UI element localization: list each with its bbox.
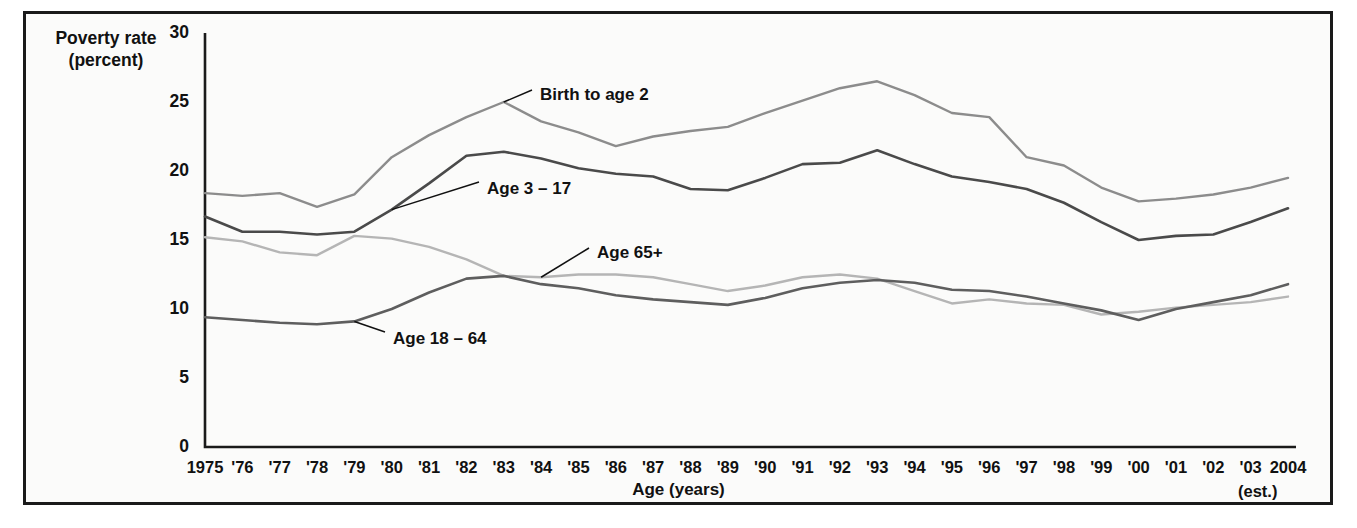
y-axis-tick-label: 20 [149,160,189,181]
x-axis-tick-label: '00 [1127,458,1149,477]
x-axis-tick-label: '98 [1053,458,1075,477]
x-axis-tick-label: '82 [455,458,477,477]
annotation-leader [541,248,589,277]
x-axis-title: Age (years) [0,480,1357,500]
estimate-note: (est.) [1238,482,1277,501]
x-axis-tick-label: 2004 [1270,458,1307,477]
x-axis-tick-label: '76 [231,458,253,477]
series-label: Age 3 – 17 [487,179,571,199]
x-axis-tick-label: '88 [679,458,701,477]
x-axis-tick-label: '90 [754,458,776,477]
x-axis-tick-label: '92 [829,458,851,477]
x-axis-tick-label: 1975 [187,458,224,477]
annotation-leader [354,321,385,332]
x-axis-tick-label: '77 [269,458,291,477]
x-axis-tick-label: '02 [1202,458,1224,477]
chart-plot-area [0,0,1357,528]
annotation-leader [392,182,479,210]
series-line [205,150,1288,240]
y-axis-tick-label: 5 [149,367,189,388]
x-axis-tick-label: '85 [567,458,589,477]
y-axis-tick-label: 25 [149,91,189,112]
x-axis-tick-label: '84 [530,458,552,477]
x-axis-tick-label: '86 [605,458,627,477]
x-axis-tick-label: '80 [381,458,403,477]
x-axis-tick-label: '89 [717,458,739,477]
y-axis-tick-label: 15 [149,229,189,250]
x-axis-tick-label: '94 [903,458,925,477]
x-axis-tick-label: '97 [1015,458,1037,477]
x-axis-tick-label: '81 [418,458,440,477]
series-label: Age 65+ [597,243,663,263]
y-axis-tick-label: 10 [149,298,189,319]
x-axis-tick-label: '78 [306,458,328,477]
x-axis-tick-label: '83 [493,458,515,477]
series-label: Age 18 – 64 [393,329,487,349]
series-line [205,276,1288,324]
x-axis-tick-label: '91 [791,458,813,477]
x-axis-tick-label: '93 [866,458,888,477]
annotation-leader [504,90,532,102]
y-axis-tick-label: 30 [149,22,189,43]
x-axis-tick-label: '01 [1165,458,1187,477]
series-label: Birth to age 2 [540,85,649,105]
x-axis-tick-label: '95 [941,458,963,477]
x-axis-tick-label: '96 [978,458,1000,477]
x-axis-tick-label: '03 [1240,458,1262,477]
poverty-rate-chart-figure: Poverty rate (percent) 0510152025301975'… [0,0,1357,528]
x-axis-tick-label: '99 [1090,458,1112,477]
y-axis-tick-label: 0 [149,436,189,457]
series-line [205,81,1288,207]
x-axis-tick-label: '87 [642,458,664,477]
x-axis-tick-label: '79 [343,458,365,477]
